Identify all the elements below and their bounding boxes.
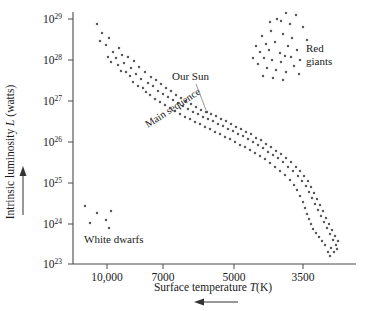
data-point — [227, 128, 230, 131]
data-point — [274, 41, 277, 44]
data-point — [329, 233, 332, 236]
data-point — [144, 71, 147, 74]
data-point — [320, 215, 323, 218]
data-point — [115, 57, 118, 60]
data-point — [175, 94, 178, 97]
data-point — [284, 174, 287, 177]
data-point — [305, 185, 308, 188]
data-point — [147, 82, 150, 85]
data-point — [330, 247, 333, 250]
data-point — [99, 40, 102, 43]
data-point — [138, 66, 141, 69]
data-point — [255, 45, 258, 48]
y-axis-ticks — [68, 19, 73, 264]
data-point — [315, 232, 318, 235]
data-point — [255, 137, 258, 140]
data-point — [212, 120, 215, 123]
data-point — [140, 78, 143, 81]
data-point — [165, 87, 168, 90]
data-point — [118, 47, 121, 50]
data-point — [108, 227, 111, 230]
series-main-sequence — [96, 23, 340, 258]
data-point — [328, 223, 331, 226]
data-point — [244, 146, 247, 149]
data-point — [184, 116, 187, 119]
hr-diagram-figure: 1029102810271026102510241023 10,00070005… — [0, 0, 367, 311]
data-point — [237, 133, 240, 136]
data-point — [107, 56, 110, 59]
data-point — [326, 227, 329, 230]
data-point — [105, 219, 108, 222]
data-point — [240, 128, 243, 131]
data-point — [270, 30, 273, 33]
data-point — [145, 91, 148, 94]
data-point — [306, 39, 309, 42]
x-axis-title-text: Surface temperature T(K) — [154, 281, 272, 294]
data-point — [271, 59, 274, 62]
data-point — [235, 126, 238, 129]
x-tick-label-10000: 10,000 — [91, 271, 123, 284]
data-point — [190, 103, 193, 106]
data-point — [327, 251, 330, 254]
data-point — [214, 131, 217, 134]
data-point — [324, 244, 327, 247]
data-point — [267, 151, 270, 154]
data-point — [269, 162, 272, 165]
data-point — [194, 121, 197, 124]
data-point — [195, 106, 198, 109]
data-point — [268, 49, 271, 52]
data-point — [150, 76, 153, 79]
data-point — [335, 244, 338, 247]
y-tick-label-25: 1025 — [43, 176, 62, 190]
data-point — [299, 195, 302, 198]
series-white-dwarfs — [84, 205, 113, 230]
data-point — [312, 228, 315, 231]
data-point — [280, 20, 283, 23]
data-point — [307, 180, 310, 183]
data-point — [89, 222, 92, 225]
our-sun-label: Our Sun — [172, 70, 209, 82]
data-point — [105, 44, 108, 47]
data-point — [265, 143, 268, 146]
data-point — [277, 157, 280, 160]
data-point — [310, 186, 313, 189]
data-point — [295, 14, 298, 17]
data-point — [220, 118, 223, 121]
data-point — [319, 204, 322, 207]
data-point — [303, 175, 306, 178]
data-point — [154, 98, 157, 101]
data-point — [289, 179, 292, 182]
data-point — [204, 126, 207, 129]
data-point — [290, 56, 293, 59]
data-point — [219, 133, 222, 136]
data-point — [259, 51, 262, 54]
data-point — [280, 61, 283, 64]
data-point — [297, 175, 300, 178]
data-point — [234, 141, 237, 144]
data-point — [257, 144, 260, 147]
data-point — [265, 43, 268, 46]
data-point — [310, 223, 313, 226]
data-point — [157, 90, 160, 93]
data-point — [285, 12, 288, 15]
data-point — [130, 67, 133, 70]
data-point — [323, 221, 326, 224]
data-point — [262, 75, 265, 78]
data-point — [230, 123, 233, 126]
data-point — [318, 236, 321, 239]
data-point — [152, 85, 155, 88]
data-point — [254, 152, 257, 155]
data-point — [264, 158, 267, 161]
data-point — [331, 229, 334, 232]
y-tick-label-26: 1026 — [43, 135, 62, 149]
data-point — [299, 59, 302, 62]
data-point — [242, 135, 245, 138]
data-point — [296, 189, 299, 192]
data-point — [117, 64, 120, 67]
data-point — [162, 93, 165, 96]
data-point — [215, 115, 218, 118]
y-axis-title-text: Intrinsic luminosity L (watts) — [4, 85, 17, 220]
data-point — [317, 209, 320, 212]
data-point — [142, 87, 145, 90]
data-point — [308, 191, 311, 194]
